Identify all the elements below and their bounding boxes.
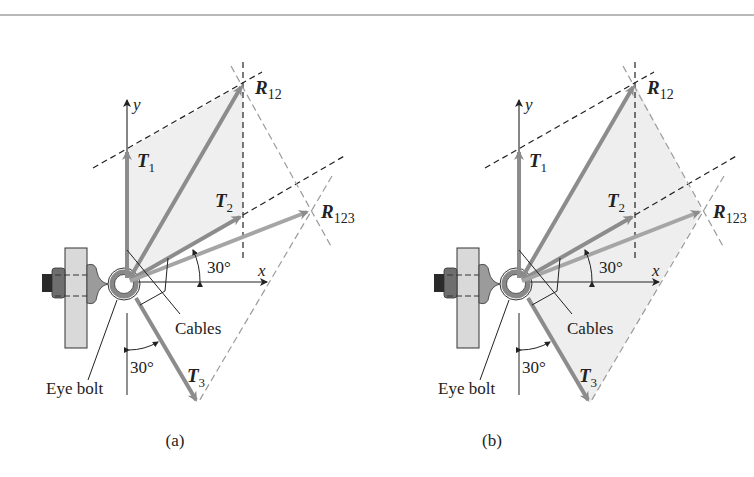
x-axis-label: x [651,261,660,280]
cables-label: Cables [567,319,613,338]
label-R12: R12 [254,77,282,102]
shaded-triangle [519,84,702,403]
x-axis-label: x [257,261,266,280]
label-T1: T1 [529,150,547,175]
label-R123: R123 [320,201,355,226]
eye-bolt-leader [88,300,117,380]
angle-label-top: 30° [599,258,623,277]
angle-arc-bottom [521,342,550,350]
angle-label-bottom: 30° [130,358,154,377]
eye-bolt-label: Eye bolt [438,379,495,398]
panel-a: y x T1 T2 T3 R12 R123 30° 30° Cables Eye… [42,62,355,450]
angle-label-bottom: 30° [522,358,546,377]
label-R123: R123 [712,201,747,226]
eye-bolt-leader [480,300,509,380]
cables-label: Cables [175,319,221,338]
angle-label-top: 30° [207,258,231,277]
label-R12: R12 [646,77,674,102]
panel-b: y x T1 T2 T3 R12 R123 30° 30° Cables Eye… [434,62,747,450]
caption-a: (a) [166,431,185,450]
y-axis-label: y [523,95,533,114]
cables-leader [140,291,165,305]
cables-leader [165,258,168,291]
angle-arc-bottom [129,342,158,350]
caption-b: (b) [482,431,502,450]
force-diagram: y x T1 T2 T3 R12 R123 30° 30° Cables Eye… [0,0,754,477]
eye-bolt-label: Eye bolt [46,379,103,398]
y-axis-label: y [131,95,141,114]
